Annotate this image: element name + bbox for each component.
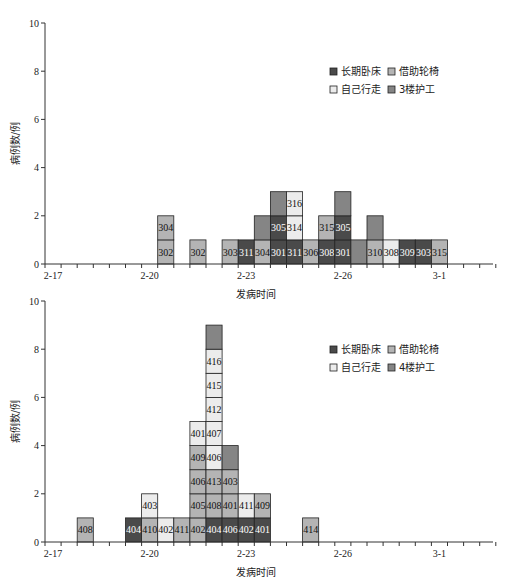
x-tick-label: 2-17 (44, 548, 62, 559)
x-tick-label: 2-23 (237, 548, 255, 559)
x-tick-label: 3-1 (433, 548, 446, 559)
legend-swatch (330, 68, 337, 75)
y-axis-title: 病例数/例 (9, 122, 21, 165)
bar-label: 402 (158, 524, 173, 535)
bar-label: 310 (368, 247, 383, 258)
legend-label: 借助轮椅 (399, 65, 439, 77)
y-tick-label: 8 (34, 66, 39, 77)
bar-label: 309 (400, 247, 415, 258)
y-axis-title: 病例数/例 (9, 400, 21, 443)
bar-label: 308 (384, 247, 399, 258)
bar-label: 404 (207, 524, 222, 535)
legend-label: 借助轮椅 (399, 343, 439, 355)
bar-segment (335, 192, 351, 216)
bar-segment (222, 446, 238, 470)
bar-label: 409 (255, 500, 270, 511)
legend-swatch (388, 68, 395, 75)
legend-label: 长期卧床 (341, 65, 381, 77)
bar-label: 403 (142, 500, 157, 511)
bar-segment (254, 216, 270, 240)
x-tick-label: 2-23 (237, 270, 255, 281)
bar-label: 406 (191, 476, 206, 487)
bar-label: 305 (335, 222, 350, 233)
y-tick-label: 0 (34, 537, 39, 548)
bar-label: 316 (287, 198, 302, 209)
y-tick-label: 4 (34, 162, 39, 173)
legend-swatch (330, 86, 337, 93)
legend-label: 自己行走 (341, 83, 381, 95)
bar-label: 404 (126, 524, 141, 535)
x-axis-title: 发病时间 (236, 288, 276, 300)
x-tick-label: 3-1 (433, 270, 446, 281)
legend-label: 自己行走 (341, 361, 381, 373)
bar-label: 403 (223, 476, 238, 487)
bar-label: 402 (191, 524, 206, 535)
bar-label: 401 (223, 500, 238, 511)
bar-label: 315 (319, 222, 334, 233)
bar-label: 302 (158, 247, 173, 258)
bar-segment (367, 216, 383, 240)
bar-label: 308 (319, 247, 334, 258)
legend-swatch (388, 346, 395, 353)
x-tick-label: 2-17 (44, 270, 62, 281)
bar-label: 304 (255, 247, 270, 258)
y-tick-label: 8 (34, 344, 39, 355)
y-tick-label: 2 (34, 210, 39, 221)
x-tick-label: 2-26 (334, 548, 352, 559)
bar-label: 304 (158, 222, 173, 233)
y-tick-label: 10 (29, 18, 39, 29)
bar-label: 301 (271, 247, 286, 258)
bar-label: 302 (191, 247, 206, 258)
legend-label: 4楼护工 (399, 361, 435, 373)
epidemic-curve-figure: 3023043023033113043013053113143163063083… (0, 0, 508, 588)
bar-segment (206, 325, 222, 349)
bar-segment (351, 240, 367, 264)
bar-label: 408 (78, 524, 93, 535)
legend-label: 长期卧床 (341, 343, 381, 355)
bar-label: 415 (207, 380, 222, 391)
bar-label: 406 (223, 524, 238, 535)
bar-label: 406 (207, 452, 222, 463)
bar-label: 311 (287, 247, 302, 258)
bar-label: 303 (416, 247, 431, 258)
chart-panel-3rd-floor: 3023043023033113043013053113143163063083… (9, 18, 496, 301)
x-tick-label: 2-20 (140, 548, 158, 559)
legend: 长期卧床借助轮椅自己行走4楼护工 (330, 343, 439, 373)
bar-label: 411 (175, 524, 190, 535)
legend-label: 3楼护工 (399, 83, 435, 95)
bar-label: 411 (239, 500, 254, 511)
legend-swatch (388, 86, 395, 93)
bar-label: 410 (142, 524, 157, 535)
bar-label: 414 (303, 524, 318, 535)
bar-label: 303 (223, 247, 238, 258)
chart-panel-4th-floor: 4084044104034024114024054064094014044084… (9, 296, 496, 579)
bar-label: 407 (207, 428, 222, 439)
x-axis-title: 发病时间 (236, 566, 276, 578)
y-tick-label: 0 (34, 259, 39, 270)
bar-label: 409 (191, 452, 206, 463)
y-tick-label: 6 (34, 114, 39, 125)
bar-label: 416 (207, 356, 222, 367)
y-tick-label: 10 (29, 296, 39, 307)
y-tick-label: 2 (34, 488, 39, 499)
bar-label: 306 (303, 247, 318, 258)
y-tick-label: 6 (34, 392, 39, 403)
bar-label: 401 (255, 524, 270, 535)
bar-label: 412 (207, 404, 222, 415)
bar-label: 408 (207, 500, 222, 511)
bar-label: 401 (191, 428, 206, 439)
bar-label: 402 (239, 524, 254, 535)
bar-label: 405 (191, 500, 206, 511)
x-tick-label: 2-26 (334, 270, 352, 281)
y-tick-label: 4 (34, 440, 39, 451)
x-tick-label: 2-20 (140, 270, 158, 281)
bar-label: 311 (239, 247, 254, 258)
bar-label: 413 (207, 476, 222, 487)
legend-swatch (330, 346, 337, 353)
bar-label: 314 (287, 222, 302, 233)
bar-label: 315 (432, 247, 447, 258)
legend-swatch (388, 364, 395, 371)
legend: 长期卧床借助轮椅自己行走3楼护工 (330, 65, 439, 95)
bar-label: 301 (335, 247, 350, 258)
legend-swatch (330, 364, 337, 371)
